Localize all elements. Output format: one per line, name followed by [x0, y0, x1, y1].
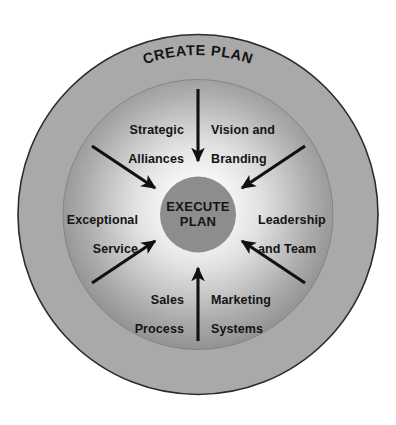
node-label-strategic-alliances-line1: Strategic — [104, 123, 184, 138]
diagram-canvas: CREATE PLAN EXECUTE PLAN Strategic Allia… — [0, 0, 396, 425]
node-label-marketing-systems: Marketing Systems — [211, 278, 297, 351]
node-label-strategic-alliances: Strategic Alliances — [104, 108, 184, 181]
node-label-sales-process-line2: Process — [110, 322, 184, 337]
node-label-vision-and-branding-line1: Vision and — [211, 123, 295, 138]
node-label-marketing-systems-line2: Systems — [211, 322, 297, 337]
node-label-leadership-and-team: Leadership and Team — [258, 198, 344, 271]
node-label-exceptional-service-line2: Service — [56, 242, 138, 257]
node-label-strategic-alliances-line2: Alliances — [104, 152, 184, 167]
node-label-exceptional-service: Exceptional Service — [56, 198, 138, 271]
node-label-sales-process-line1: Sales — [110, 293, 184, 308]
node-label-leadership-and-team-line2: and Team — [258, 242, 344, 257]
node-label-marketing-systems-line1: Marketing — [211, 293, 297, 308]
node-label-vision-and-branding-line2: Branding — [211, 152, 295, 167]
node-label-vision-and-branding: Vision and Branding — [211, 108, 295, 181]
node-label-leadership-and-team-line1: Leadership — [258, 213, 344, 228]
center-label-line2: PLAN — [180, 214, 217, 229]
node-label-exceptional-service-line1: Exceptional — [56, 213, 138, 228]
node-label-sales-process: Sales Process — [110, 278, 184, 351]
center-label-line1: EXECUTE — [166, 199, 230, 214]
